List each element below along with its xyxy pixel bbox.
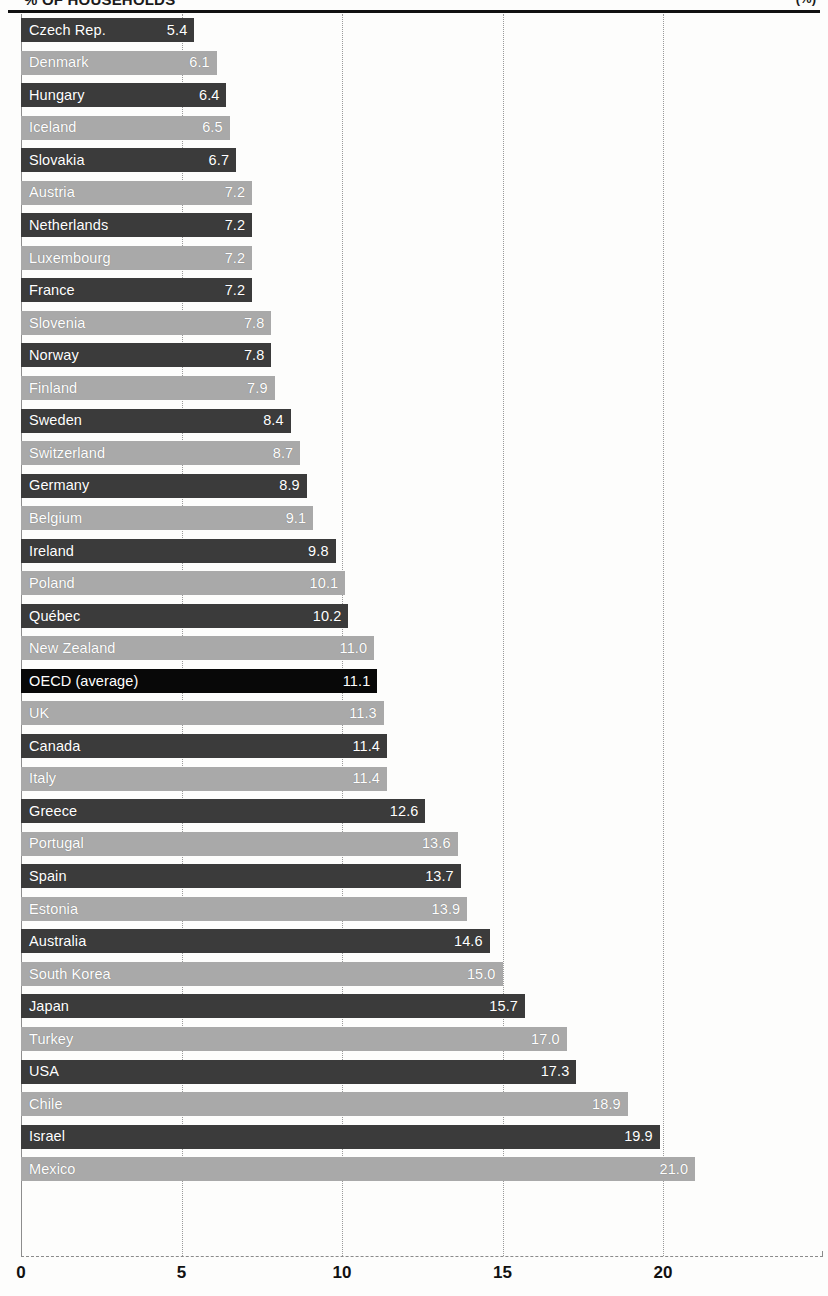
header-rule — [8, 10, 820, 13]
bar-value-label: 19.9 — [624, 1129, 653, 1144]
bar-value-label: 6.5 — [202, 120, 222, 135]
bar[interactable]: Estonia13.9 — [21, 897, 467, 921]
bar-value-label: 10.1 — [310, 576, 339, 591]
bar[interactable]: Israel19.9 — [21, 1125, 660, 1149]
bar[interactable]: Denmark6.1 — [21, 51, 217, 75]
chart-title: % OF HOUSEHOLDS — [24, 0, 175, 8]
bar-row: Austria7.2 — [0, 177, 828, 210]
bar-value-label: 6.1 — [189, 55, 209, 70]
x-axis-line — [21, 1256, 823, 1257]
bar-category-label: Québec — [29, 609, 80, 624]
bar-category-label: France — [29, 283, 75, 298]
bar-category-label: Luxembourg — [29, 251, 111, 266]
bar[interactable]: UK11.3 — [21, 701, 384, 725]
bar-category-label: Austria — [29, 185, 75, 200]
bar-value-label: 7.2 — [225, 251, 245, 266]
bar-category-label: Netherlands — [29, 218, 108, 233]
bar-row: Denmark6.1 — [0, 47, 828, 80]
bar[interactable]: Italy11.4 — [21, 767, 387, 791]
bar-category-label: Ireland — [29, 544, 74, 559]
bar-value-label: 15.0 — [467, 967, 496, 982]
bar-category-label: Switzerland — [29, 446, 105, 461]
bar[interactable]: France7.2 — [21, 278, 252, 302]
bar-value-label: 7.9 — [247, 381, 267, 396]
bar[interactable]: Australia14.6 — [21, 929, 490, 953]
bar-value-label: 8.9 — [279, 478, 299, 493]
bar-category-label: Iceland — [29, 120, 76, 135]
bar-value-label: 10.2 — [313, 609, 342, 624]
bar[interactable]: Norway7.8 — [21, 343, 271, 367]
bar[interactable]: Portugal13.6 — [21, 832, 458, 856]
x-axis: 05101520 — [0, 1256, 828, 1296]
bar-value-label: 7.8 — [244, 316, 264, 331]
bar[interactable]: Netherlands7.2 — [21, 213, 252, 237]
bar-category-label: OECD (average) — [29, 674, 138, 689]
bar-category-label: Chile — [29, 1097, 63, 1112]
bar[interactable]: Slovakia6.7 — [21, 148, 236, 172]
bar-category-label: Japan — [29, 999, 69, 1014]
bar[interactable]: Czech Rep.5.4 — [21, 18, 194, 42]
bar-row: Chile18.9 — [0, 1088, 828, 1121]
bar-row: Greece12.6 — [0, 795, 828, 828]
bar[interactable]: Chile18.9 — [21, 1092, 628, 1116]
bar-category-label: Mexico — [29, 1162, 76, 1177]
bar-row: Czech Rep.5.4 — [0, 14, 828, 47]
bar-category-label: New Zealand — [29, 641, 116, 656]
bar[interactable]: Japan15.7 — [21, 994, 525, 1018]
bar-row: OECD (average)11.1 — [0, 665, 828, 698]
bar[interactable]: Finland7.9 — [21, 376, 275, 400]
bar-category-label: Canada — [29, 739, 80, 754]
bar[interactable]: Spain13.7 — [21, 864, 461, 888]
bar[interactable]: Mexico21.0 — [21, 1157, 695, 1181]
bar-value-label: 18.9 — [592, 1097, 621, 1112]
bar-value-label: 7.8 — [244, 348, 264, 363]
bar-category-label: Estonia — [29, 902, 78, 917]
bar-row: Italy11.4 — [0, 763, 828, 796]
bar-row: Slovakia6.7 — [0, 144, 828, 177]
bar[interactable]: Germany8.9 — [21, 474, 307, 498]
bar[interactable]: Canada11.4 — [21, 734, 387, 758]
bar-value-label: 11.4 — [352, 739, 380, 754]
bar-category-label: Slovenia — [29, 316, 85, 331]
bar-category-label: Turkey — [29, 1032, 73, 1047]
bar-value-label: 8.7 — [273, 446, 293, 461]
bar[interactable]: Luxembourg7.2 — [21, 246, 252, 270]
bar-category-label: Australia — [29, 934, 86, 949]
bar-row: Estonia13.9 — [0, 893, 828, 926]
bar[interactable]: Greece12.6 — [21, 799, 425, 823]
bar-category-label: Israel — [29, 1129, 65, 1144]
bar-category-label: Italy — [29, 771, 56, 786]
bar[interactable]: Hungary6.4 — [21, 83, 226, 107]
bar[interactable]: Slovenia7.8 — [21, 311, 271, 335]
x-tick-label-0: 0 — [16, 1264, 25, 1281]
bar[interactable]: Belgium9.1 — [21, 506, 313, 530]
bar-row: Slovenia7.8 — [0, 307, 828, 340]
bar-row: France7.2 — [0, 274, 828, 307]
bar-value-label: 7.2 — [225, 185, 245, 200]
bar[interactable]: Switzerland8.7 — [21, 441, 300, 465]
bar[interactable]: Poland10.1 — [21, 571, 345, 595]
bar[interactable]: Québec10.2 — [21, 604, 348, 628]
bar-value-label: 6.7 — [209, 153, 229, 168]
bar[interactable]: Turkey17.0 — [21, 1027, 567, 1051]
bar[interactable]: Ireland9.8 — [21, 539, 336, 563]
bar-category-label: Poland — [29, 576, 75, 591]
bar-value-label: 9.8 — [308, 544, 328, 559]
bar-row: Ireland9.8 — [0, 535, 828, 568]
bar[interactable]: OECD (average)11.1 — [21, 669, 377, 693]
x-tick-label-20: 20 — [654, 1264, 673, 1281]
bar-category-label: Slovakia — [29, 153, 85, 168]
bar-row: South Korea15.0 — [0, 958, 828, 991]
bar[interactable]: New Zealand11.0 — [21, 636, 374, 660]
bar-row: UK11.3 — [0, 697, 828, 730]
bar-category-label: Denmark — [29, 55, 89, 70]
bar-category-label: Germany — [29, 478, 89, 493]
bar-row: New Zealand11.0 — [0, 632, 828, 665]
bar[interactable]: Sweden8.4 — [21, 409, 291, 433]
bar[interactable]: South Korea15.0 — [21, 962, 503, 986]
bar[interactable]: Iceland6.5 — [21, 116, 230, 140]
bar[interactable]: USA17.3 — [21, 1060, 576, 1084]
bar[interactable]: Austria7.2 — [21, 181, 252, 205]
bar-value-label: 9.1 — [286, 511, 306, 526]
bar-value-label: 15.7 — [489, 999, 518, 1014]
